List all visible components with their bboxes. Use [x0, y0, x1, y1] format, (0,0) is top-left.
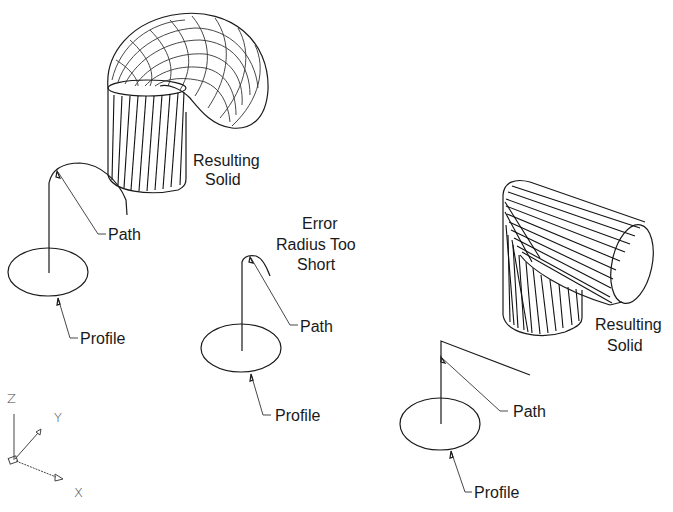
sweep-diagram: Resulting Solid Path Profile Error Radiu… [0, 0, 673, 512]
example-1-result-label-line2: Solid [205, 171, 241, 188]
example-3-path-label: Path [513, 403, 546, 420]
example-3-result-label-line2: Solid [607, 337, 643, 354]
example-2-profile-label: Profile [275, 407, 320, 424]
ucs-y-label: Y [54, 410, 62, 425]
example-2-error-line1: Error [302, 215, 338, 232]
example-2-path [242, 256, 298, 351]
example-2-error-line3: Short [297, 256, 336, 273]
example-3-result-label-line1: Resulting [595, 316, 662, 333]
example-2-profile [201, 324, 281, 415]
example-1-result-label-line1: Resulting [193, 152, 260, 169]
example-2-error-line2: Radius Too [276, 236, 356, 253]
example-1-profile [8, 248, 88, 338]
example-1-profile-label: Profile [80, 330, 125, 347]
ucs-z-label: Z [7, 391, 16, 406]
example-3-profile [400, 398, 480, 492]
example-1-path [49, 163, 127, 273]
example-2-path-label: Path [300, 318, 333, 335]
example-1-path-label: Path [108, 226, 141, 243]
ucs-x-label: X [74, 485, 83, 500]
example-3-profile-label: Profile [474, 484, 519, 501]
example-3-resulting-solid [503, 181, 660, 336]
